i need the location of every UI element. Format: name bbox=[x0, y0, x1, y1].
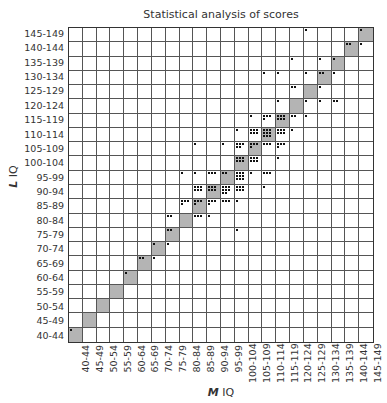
grid-cell bbox=[138, 256, 152, 270]
score-dot bbox=[277, 129, 279, 131]
grid-cell bbox=[207, 185, 221, 199]
dot-cluster bbox=[333, 58, 344, 60]
grid-cell bbox=[359, 171, 373, 185]
y-tick-label: 105-109 bbox=[10, 142, 66, 156]
score-dot bbox=[187, 200, 189, 202]
grid-cell bbox=[290, 57, 304, 71]
grid-cell bbox=[110, 71, 124, 85]
grid-cell bbox=[97, 114, 111, 128]
grid-cell bbox=[345, 114, 359, 128]
grid-cell bbox=[332, 242, 346, 256]
grid-cell bbox=[304, 328, 318, 342]
score-dot bbox=[208, 215, 210, 217]
grid-cell bbox=[318, 228, 332, 242]
grid-cell bbox=[221, 242, 235, 256]
x-tick-label: 145-149 bbox=[372, 345, 383, 383]
score-dot bbox=[269, 143, 271, 145]
y-tick-label: 60-64 bbox=[10, 271, 66, 285]
score-dot bbox=[239, 143, 241, 145]
grid-cell bbox=[193, 256, 207, 270]
grid-cell bbox=[235, 328, 249, 342]
score-dot bbox=[125, 272, 127, 274]
grid-cell bbox=[221, 128, 235, 142]
dot-cluster bbox=[333, 72, 344, 74]
grid-cell bbox=[262, 171, 276, 185]
dot-cluster bbox=[222, 200, 233, 202]
grid-cell bbox=[262, 57, 276, 71]
score-dot bbox=[208, 172, 210, 174]
grid-cell bbox=[249, 271, 263, 285]
score-dot bbox=[263, 143, 265, 145]
grid-cell bbox=[83, 256, 97, 270]
grid-cell bbox=[332, 42, 346, 56]
score-dot bbox=[239, 186, 241, 188]
grid-cell bbox=[166, 228, 180, 242]
dot-cluster bbox=[139, 257, 150, 259]
grid-cell bbox=[193, 271, 207, 285]
grid-cell bbox=[262, 156, 276, 170]
score-dot bbox=[197, 186, 199, 188]
grid-cell bbox=[124, 313, 138, 327]
score-dot bbox=[253, 129, 255, 131]
y-tick-label: 145-149 bbox=[10, 27, 66, 41]
grid-cell bbox=[152, 328, 166, 342]
y-tick-label: 40-44 bbox=[10, 329, 66, 343]
grid-cell bbox=[124, 99, 138, 113]
dot-cluster bbox=[333, 100, 344, 102]
grid-cell bbox=[110, 228, 124, 242]
grid-cell bbox=[249, 228, 263, 242]
grid-cell bbox=[166, 28, 180, 42]
grid-cell bbox=[235, 71, 249, 85]
grid-cell bbox=[359, 156, 373, 170]
score-dot bbox=[263, 132, 265, 134]
dot-cluster bbox=[181, 200, 192, 205]
score-dot bbox=[266, 115, 268, 117]
grid-cell bbox=[180, 328, 194, 342]
score-dot bbox=[222, 192, 224, 194]
grid-cell bbox=[180, 85, 194, 99]
grid-cell bbox=[166, 185, 180, 199]
grid-cell bbox=[69, 214, 83, 228]
grid-cell bbox=[193, 285, 207, 299]
grid-cell bbox=[276, 285, 290, 299]
score-dot bbox=[236, 172, 238, 174]
score-dot bbox=[269, 172, 271, 174]
score-dot bbox=[277, 132, 279, 134]
grid-cell bbox=[152, 199, 166, 213]
grid-cell bbox=[276, 328, 290, 342]
grid-cell bbox=[304, 114, 318, 128]
grid-cell bbox=[138, 85, 152, 99]
grid-cell bbox=[235, 156, 249, 170]
grid-cell bbox=[166, 328, 180, 342]
score-dot bbox=[239, 172, 241, 174]
y-tick-label: 70-74 bbox=[10, 242, 66, 256]
grid-cell bbox=[166, 114, 180, 128]
grid-cell bbox=[69, 199, 83, 213]
score-dot bbox=[239, 175, 241, 177]
score-dot bbox=[242, 157, 244, 159]
grid-cell bbox=[97, 71, 111, 85]
grid-cell bbox=[166, 57, 180, 71]
grid-cell bbox=[290, 271, 304, 285]
grid-cell bbox=[276, 128, 290, 142]
grid-cell bbox=[359, 114, 373, 128]
y-tick-label: 140-144 bbox=[10, 41, 66, 55]
score-dot bbox=[283, 115, 285, 117]
grid-cell bbox=[138, 285, 152, 299]
grid-cell bbox=[83, 228, 97, 242]
y-tick-label: 85-89 bbox=[10, 199, 66, 213]
dot-cluster bbox=[250, 172, 261, 174]
dot-cluster bbox=[305, 29, 316, 31]
grid-cell bbox=[332, 99, 346, 113]
grid-cell bbox=[249, 42, 263, 56]
grid-cell bbox=[193, 228, 207, 242]
grid-cell bbox=[332, 28, 346, 42]
grid-cell bbox=[276, 214, 290, 228]
grid-cell bbox=[69, 99, 83, 113]
grid-cell bbox=[83, 271, 97, 285]
grid-cell bbox=[332, 57, 346, 71]
grid-cell bbox=[318, 214, 332, 228]
grid-cell bbox=[345, 313, 359, 327]
grid-cell bbox=[110, 328, 124, 342]
grid-cell bbox=[207, 71, 221, 85]
